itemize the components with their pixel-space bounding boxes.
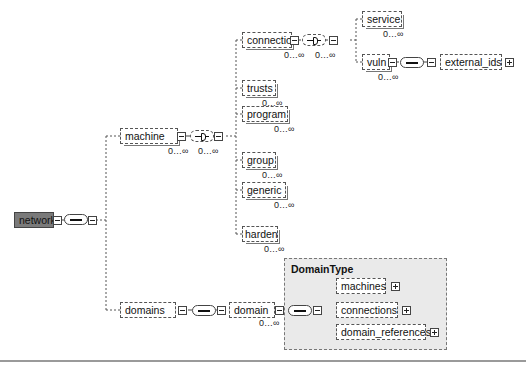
bottom-divider <box>0 360 526 362</box>
cardinality-label: 0…∞ <box>198 146 218 156</box>
sequence-compositor-icon[interactable] <box>288 305 312 316</box>
element-label: vuln <box>367 56 386 68</box>
element-connections[interactable]: connections <box>336 302 398 318</box>
expand-toggle-connections[interactable] <box>402 306 411 315</box>
element-generic[interactable]: generic <box>242 182 286 198</box>
collapse-toggle-domain[interactable] <box>275 306 284 315</box>
cardinality-label: 0…∞ <box>315 50 335 60</box>
cardinality-label: 0…∞ <box>262 170 282 180</box>
sequence-compositor-icon[interactable] <box>192 305 216 316</box>
collapse-toggle-machine[interactable] <box>177 132 186 141</box>
element-vuln[interactable]: vuln <box>362 54 390 70</box>
element-external-ids[interactable]: external_ids <box>440 54 502 70</box>
element-label: program <box>247 108 286 120</box>
element-label: external_ids <box>445 56 502 68</box>
choice-compositor-icon[interactable] <box>190 130 214 142</box>
collapse-toggle-choice[interactable] <box>214 132 223 141</box>
cardinality-label: 0…∞ <box>274 124 294 134</box>
element-domain[interactable]: domain <box>229 302 275 318</box>
collapse-toggle-domains[interactable] <box>178 306 187 315</box>
element-trusts[interactable]: trusts <box>242 80 276 96</box>
element-machine[interactable]: machine <box>120 128 178 144</box>
element-label: connections <box>341 304 397 316</box>
element-machines[interactable]: machines <box>336 278 386 294</box>
element-label: machine <box>125 130 165 142</box>
cardinality-label: 0…∞ <box>259 318 279 328</box>
element-label: trusts <box>247 82 273 94</box>
complex-type-title: DomainType <box>291 263 353 275</box>
expand-toggle-external-ids[interactable] <box>505 58 514 67</box>
expand-toggle-domain-references[interactable] <box>430 328 439 337</box>
collapse-toggle-sequence[interactable] <box>313 306 322 315</box>
element-network[interactable]: network <box>14 212 54 228</box>
collapse-toggle-network[interactable] <box>53 216 62 225</box>
element-connection[interactable]: connection <box>242 32 292 48</box>
element-label: network <box>19 214 56 226</box>
element-harden[interactable]: harden <box>242 226 278 242</box>
element-label: group <box>247 154 274 166</box>
element-label: generic <box>247 184 281 196</box>
collapse-toggle-sequence[interactable] <box>217 306 226 315</box>
element-domains[interactable]: domains <box>120 302 176 318</box>
element-program[interactable]: program <box>242 106 288 122</box>
collapse-toggle-sequence[interactable] <box>88 216 97 225</box>
cardinality-label: 0…∞ <box>168 146 188 156</box>
collapse-toggle-sequence[interactable] <box>427 58 436 67</box>
element-group[interactable]: group <box>242 152 276 168</box>
cardinality-label: 0…∞ <box>284 50 304 60</box>
cardinality-label: 0…∞ <box>378 72 398 82</box>
sequence-compositor-icon[interactable] <box>400 57 424 68</box>
cardinality-label: 0…∞ <box>383 29 403 39</box>
collapse-toggle-vuln[interactable] <box>388 58 397 67</box>
element-label: service <box>367 13 400 25</box>
schema-diagram: network machine 0…∞ 0…∞ connection 0…∞ 0… <box>0 0 526 368</box>
choice-compositor-icon[interactable] <box>302 34 326 46</box>
expand-toggle-machines[interactable] <box>391 282 400 291</box>
collapse-toggle-connection[interactable] <box>290 36 299 45</box>
element-label: harden <box>245 228 278 240</box>
element-label: domains <box>125 304 165 316</box>
element-label: machines <box>341 280 386 292</box>
element-domain-references[interactable]: domain_references <box>336 324 426 340</box>
element-label: domain_references <box>341 326 431 338</box>
sequence-compositor-icon[interactable] <box>64 214 88 225</box>
element-service[interactable]: service <box>362 11 402 27</box>
element-label: domain <box>234 304 268 316</box>
cardinality-label: 0…∞ <box>274 200 294 210</box>
cardinality-label: 0…∞ <box>264 244 284 254</box>
collapse-toggle-choice[interactable] <box>329 36 338 45</box>
